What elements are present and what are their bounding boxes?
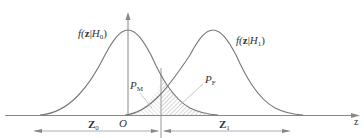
detection-diagram: f(z|H0) f(z|H1) PM PF O z Z0 Z1 <box>0 0 364 138</box>
curve-h1-label: f(z|H1) <box>236 34 265 48</box>
z0-right-arrow-icon <box>151 129 159 133</box>
vertical-axis-arrow-icon <box>126 12 131 20</box>
z0-region-label: Z0 <box>88 118 99 132</box>
curve-h0-label: f(z|H0) <box>78 27 107 41</box>
z0-left-arrow-icon <box>33 129 42 133</box>
origin-label: O <box>119 117 127 129</box>
pf-leader-line <box>180 84 203 105</box>
z1-left-arrow-icon <box>163 129 171 133</box>
curve-h0 <box>40 30 218 115</box>
curve-h1 <box>125 30 303 115</box>
z-axis-label: z <box>354 116 359 127</box>
z1-right-arrow-icon <box>282 129 291 133</box>
pm-label: PM <box>129 79 144 93</box>
z1-region-label: Z1 <box>219 118 230 132</box>
pf-label: PF <box>204 73 216 87</box>
